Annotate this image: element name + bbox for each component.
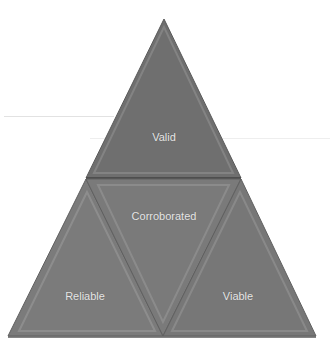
pyramid-diagram [0,0,332,353]
label-corroborated: Corroborated [132,210,197,222]
label-reliable: Reliable [65,290,105,302]
segment-valid [86,19,241,178]
label-valid: Valid [152,131,176,143]
label-viable: Viable [223,290,253,302]
